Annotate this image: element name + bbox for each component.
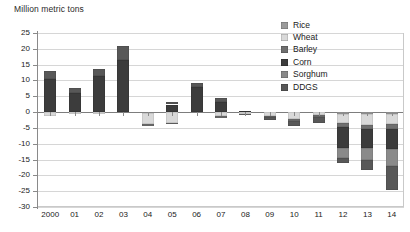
legend-item-label: Corn xyxy=(293,58,311,67)
bar-segment-corn xyxy=(117,60,129,113)
legend-item-label: DDGS xyxy=(293,83,318,92)
bar-segment-corn xyxy=(386,129,398,150)
plot-bottom-border xyxy=(38,206,404,207)
bar-group[interactable] xyxy=(264,33,276,207)
legend-swatch-icon xyxy=(281,34,288,41)
bar-group[interactable] xyxy=(142,33,154,207)
bar-segment-sorghum xyxy=(386,149,398,165)
bar-segment-ddgs xyxy=(337,158,349,163)
x-axis-tick-mark xyxy=(343,112,344,116)
legend-swatch-icon xyxy=(281,22,288,29)
legend-swatch-icon xyxy=(281,71,288,78)
bar-segment-ddgs xyxy=(215,98,227,102)
y-axis-tick-label: 5 xyxy=(4,92,30,100)
legend-swatch-icon xyxy=(281,59,288,66)
y-axis-tick-mark xyxy=(33,207,37,208)
bar-group[interactable] xyxy=(239,33,251,207)
bar-segment-sorghum xyxy=(337,148,349,158)
legend-item-label: Sorghum xyxy=(293,70,328,79)
bar-group[interactable] xyxy=(337,33,349,207)
y-axis-tick-label: -10 xyxy=(4,140,30,148)
legend-item-ddgs[interactable]: DDGS xyxy=(281,81,328,93)
x-axis-tick-mark xyxy=(319,112,320,116)
x-axis-tick-mark xyxy=(123,112,124,116)
bar-segment-corn xyxy=(337,127,349,148)
bar-segment-corn xyxy=(69,93,81,112)
y-axis-tick-mark xyxy=(33,65,37,66)
legend-item-sorghum[interactable]: Sorghum xyxy=(281,69,328,81)
y-axis-tick-mark xyxy=(33,144,37,145)
bar-segment-ddgs xyxy=(117,46,129,60)
y-axis-tick-mark xyxy=(33,33,37,34)
bar-segment-corn xyxy=(191,87,203,112)
bar-segment-barley xyxy=(142,124,154,126)
bar-group[interactable] xyxy=(361,33,373,207)
legend-item-corn[interactable]: Corn xyxy=(281,56,328,68)
legend-swatch-icon xyxy=(281,84,288,91)
bar-segment-ddgs xyxy=(93,69,105,76)
bar-segment-corn xyxy=(361,129,373,148)
x-axis-tick-mark xyxy=(270,112,271,116)
bar-segment-corn xyxy=(93,76,105,112)
bar-segment-ddgs xyxy=(386,166,398,190)
bar-group[interactable] xyxy=(191,33,203,207)
bar-segment-sorghum xyxy=(361,148,373,160)
bar-segment-ddgs xyxy=(69,88,81,93)
bar-group[interactable] xyxy=(117,33,129,207)
y-axis-tick-label: -15 xyxy=(4,156,30,164)
y-axis-tick-mark xyxy=(33,96,37,97)
bar-group[interactable] xyxy=(386,33,398,207)
y-axis-tick-label: 0 xyxy=(4,108,30,116)
bar-segment-corn xyxy=(215,102,227,112)
bar-segment-ddgs xyxy=(44,71,56,79)
bar-segment-corn xyxy=(166,105,178,113)
legend-item-wheat[interactable]: Wheat xyxy=(281,31,328,43)
legend-item-label: Rice xyxy=(293,21,310,30)
x-axis-tick-mark xyxy=(99,112,100,116)
plot-right-border xyxy=(403,33,404,207)
bar-segment-ddgs xyxy=(313,117,325,123)
bar-segment-ddgs xyxy=(361,160,373,169)
y-axis-tick-label: -30 xyxy=(4,203,30,211)
y-axis-tick-mark xyxy=(33,175,37,176)
chart-legend: RiceWheatBarleyCornSorghumDDGS xyxy=(281,19,328,93)
x-axis-tick-mark xyxy=(221,112,222,116)
legend-item-label: Wheat xyxy=(293,33,318,42)
x-axis-tick-mark xyxy=(367,112,368,116)
y-axis-tick-mark xyxy=(33,160,37,161)
y-axis-tick-label: 20 xyxy=(4,45,30,53)
bar-group[interactable] xyxy=(93,33,105,207)
y-axis-tick-mark xyxy=(33,49,37,50)
y-axis-tick-label: 25 xyxy=(4,29,30,37)
x-axis-tick-mark xyxy=(392,112,393,116)
x-axis-tick-mark xyxy=(148,112,149,116)
axis-unit-title: Million metric tons xyxy=(14,4,84,14)
bar-segment-ddgs xyxy=(191,83,203,88)
y-axis-tick-label: -5 xyxy=(4,124,30,132)
legend-item-barley[interactable]: Barley xyxy=(281,44,328,56)
x-axis-tick-mark xyxy=(50,112,51,116)
x-axis-tick-mark xyxy=(75,112,76,116)
bar-segment-ddgs xyxy=(264,117,276,120)
y-axis-tick-label: -25 xyxy=(4,187,30,195)
x-axis-tick-mark xyxy=(197,112,198,116)
x-axis-tick-mark xyxy=(245,112,246,116)
legend-item-label: Barley xyxy=(293,45,317,54)
y-axis-tick-mark xyxy=(33,191,37,192)
y-axis-tick-mark xyxy=(33,112,37,113)
plot-area xyxy=(38,33,404,207)
bar-group[interactable] xyxy=(215,33,227,207)
bar-group[interactable] xyxy=(69,33,81,207)
x-axis-tick-mark xyxy=(172,112,173,116)
y-axis-tick-label: -20 xyxy=(4,171,30,179)
bar-group[interactable] xyxy=(166,33,178,207)
y-axis-tick-mark xyxy=(33,128,37,129)
y-axis-tick-mark xyxy=(33,80,37,81)
bar-segment-barley xyxy=(166,123,178,125)
legend-swatch-icon xyxy=(281,46,288,53)
x-axis-tick-label: 14 xyxy=(376,211,408,219)
bar-group[interactable] xyxy=(44,33,56,207)
legend-item-rice[interactable]: Rice xyxy=(281,19,328,31)
y-axis-tick-label: 10 xyxy=(4,76,30,84)
chart-root: Million metric tons 2520151050-5-10-15-2… xyxy=(0,0,410,232)
